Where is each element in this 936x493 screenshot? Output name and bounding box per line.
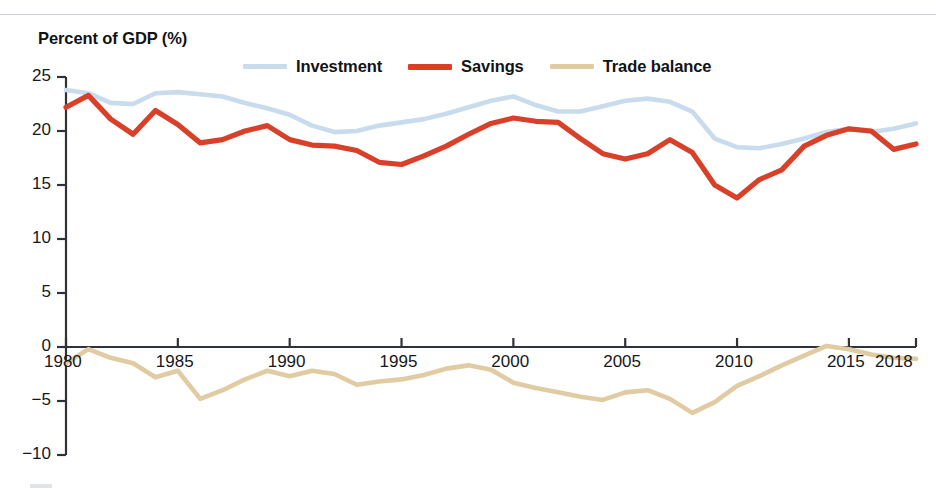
y-tick-label: −5 [0,390,51,410]
x-tick-label: 2015 [827,352,865,372]
x-tick-label: 1990 [268,352,306,372]
x-tick-label: 2000 [491,352,529,372]
x-tick-label: 2010 [715,352,753,372]
y-tick-label: 15 [0,174,51,194]
x-tick-label: 2005 [603,352,641,372]
plot-area [0,0,936,493]
series-line-savings [66,95,916,198]
y-tick-label: 5 [0,282,51,302]
y-tick-label: 25 [0,66,51,86]
x-tick-label: 2018 [875,352,913,372]
x-tick-label: 1995 [380,352,418,372]
x-tick-label: 1985 [156,352,194,372]
x-tick-label: 1980 [44,352,82,372]
y-tick-label: 10 [0,228,51,248]
chart-figure: Percent of GDP (%) Investment Savings Tr… [0,0,936,493]
y-tick-label: 20 [0,120,51,140]
y-tick-label: −10 [0,444,51,464]
